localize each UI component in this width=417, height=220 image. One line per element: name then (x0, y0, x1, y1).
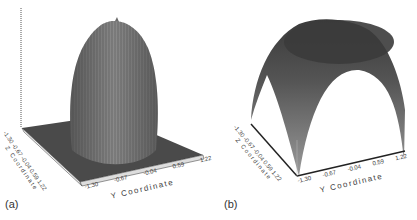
chart-panel-a: -1.30 -0.67 -0.04 0.59 1.22 Z Coordinate… (0, 0, 208, 220)
base-edge-right (297, 151, 405, 176)
surface-plot-b (209, 0, 417, 220)
panel-label-b: (b) (224, 198, 237, 210)
chart-panel-b: -1.30 -0.67 -0.04 0.59 1.22 Z Coordinate… (209, 0, 417, 220)
panel-label-a: (a) (5, 198, 18, 210)
